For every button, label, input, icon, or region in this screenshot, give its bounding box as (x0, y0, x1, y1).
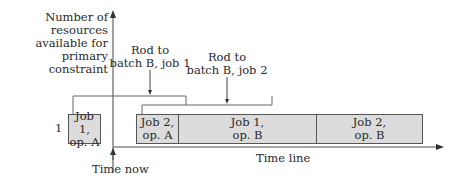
y-axis-arrow-icon (110, 10, 116, 18)
y-axis-label: Number of resources available for primar… (0, 11, 108, 76)
box-job1-opB: Job 1,op. B (178, 114, 317, 144)
annotation-line: batch B, job 2 (177, 64, 277, 77)
box-label: op. B (353, 129, 387, 142)
y-axis-label-line: primary constraint (0, 50, 108, 76)
annotation-rod-job2: Rod to batch B, job 2 (177, 51, 277, 77)
box-label: op. A (69, 136, 100, 149)
box-job1-opA: Job 1,op. A (68, 114, 101, 144)
box-job2-opA: Job 2,op. A (136, 114, 179, 144)
box-label: op. A (141, 129, 175, 142)
y-tick-label: 1 (55, 122, 62, 135)
x-axis-label: Time line (256, 152, 310, 165)
y-axis-label-line: Number of resources (0, 11, 108, 37)
time-now-label: Time now (92, 163, 149, 176)
box-label: op. B (231, 129, 265, 142)
timeline-arrow-icon (436, 144, 444, 150)
time-now-arrow-icon (110, 148, 116, 155)
box-label: Job 1, (69, 110, 100, 136)
box-job2-opB: Job 2,op. B (316, 114, 423, 144)
